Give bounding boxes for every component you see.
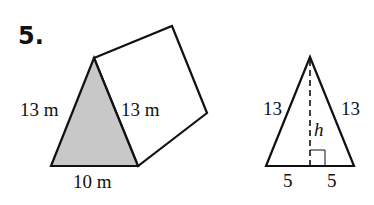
triangle-left-side-label: 13 bbox=[263, 98, 282, 119]
base-left-label: 5 bbox=[283, 170, 293, 191]
prism-right-side-label: 13 m bbox=[121, 99, 160, 120]
triangle-right-side-label: 13 bbox=[341, 98, 360, 119]
prism-base-label: 10 m bbox=[73, 171, 112, 192]
prism-left-side-label: 13 m bbox=[20, 99, 59, 120]
height-label: h bbox=[314, 119, 324, 140]
figure-canvas: 5. 13 m 13 m 10 m 13 13 h 5 5 bbox=[0, 0, 374, 205]
triangular-prism bbox=[51, 26, 207, 166]
problem-number: 5. bbox=[18, 22, 44, 50]
base-right-label: 5 bbox=[327, 170, 337, 191]
